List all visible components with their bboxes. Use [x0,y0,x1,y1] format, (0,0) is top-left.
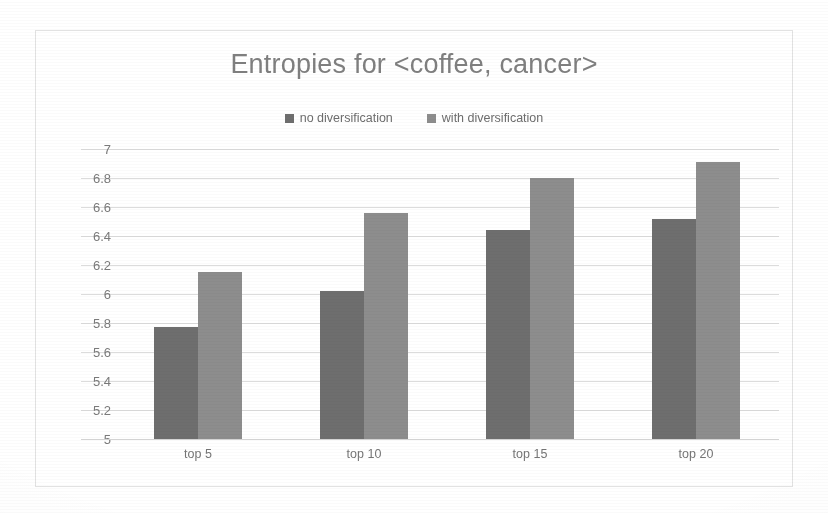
chart-frame: Entropies for <coffee, cancer> no divers… [35,30,793,487]
bar[interactable] [198,272,242,439]
bars-layer [115,149,779,439]
bar-group [447,149,613,439]
y-axis-tick-label: 5.8 [93,316,111,331]
legend-swatch-icon [285,114,294,123]
x-axis-tick-label: top 10 [281,447,447,461]
legend-item-with-diversification[interactable]: with diversification [427,111,543,125]
legend-swatch-icon [427,114,436,123]
bar[interactable] [652,219,696,439]
bar[interactable] [154,327,198,439]
y-axis-tick-label: 6.6 [93,200,111,215]
legend-label: no diversification [300,111,393,125]
x-axis-line [81,439,779,440]
bar-group [115,149,281,439]
y-axis: 76.86.66.46.265.85.65.45.25 [81,149,115,439]
bar-group [613,149,779,439]
x-axis-tick-label: top 15 [447,447,613,461]
y-axis-tick-label: 5.4 [93,374,111,389]
bar[interactable] [530,178,574,439]
bar[interactable] [320,291,364,439]
bar[interactable] [486,230,530,439]
bar-group [281,149,447,439]
y-axis-tick-label: 6 [104,287,111,302]
legend-label: with diversification [442,111,543,125]
y-axis-tick-label: 6.8 [93,171,111,186]
chart-title: Entropies for <coffee, cancer> [36,49,792,80]
plot-area: 76.86.66.46.265.85.65.45.25 [81,149,779,439]
x-axis-tick-label: top 5 [115,447,281,461]
bar[interactable] [364,213,408,439]
y-axis-tick-label: 6.4 [93,229,111,244]
chart-legend: no diversification with diversification [36,111,792,125]
y-axis-tick-label: 5.2 [93,403,111,418]
x-axis-tick-label: top 20 [613,447,779,461]
bar[interactable] [696,162,740,439]
y-axis-tick-label: 6.2 [93,258,111,273]
y-axis-tick-label: 7 [104,142,111,157]
y-axis-tick-label: 5.6 [93,345,111,360]
x-axis: top 5top 10top 15top 20 [115,447,779,461]
legend-item-no-diversification[interactable]: no diversification [285,111,393,125]
